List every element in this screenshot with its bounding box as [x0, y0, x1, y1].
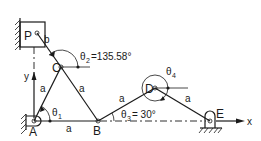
svg-text:1: 1 [58, 113, 62, 120]
theta3-arc [112, 113, 114, 121]
label-link-ac: a [40, 83, 46, 94]
link-cb [61, 67, 98, 121]
label-e: E [216, 107, 224, 121]
label-link-de: a [185, 93, 191, 104]
label-b: B [93, 124, 101, 138]
label-link-bd: a [119, 93, 125, 104]
label-c: C [52, 61, 61, 75]
y-axis-arrowhead [32, 72, 37, 80]
svg-text:4: 4 [172, 72, 176, 79]
x-axis-arrowhead [236, 119, 245, 124]
label-y-axis: y [24, 71, 29, 82]
svg-text:=135.58°: =135.58° [91, 51, 131, 62]
svg-text:3: 3 [127, 115, 131, 122]
label-link-cb: a [79, 83, 85, 94]
theta4-label: θ 4 [166, 66, 176, 79]
label-link-ab: a [66, 123, 72, 134]
theta3-label: θ 3 = 30° [121, 109, 156, 122]
label-d: D [145, 82, 154, 96]
svg-text:= 30°: = 30° [132, 109, 156, 120]
linkage-diagram: P C A B D E b a a a a a θ 2 =135.58° θ 1… [0, 0, 261, 141]
theta1-label: θ 1 [52, 107, 62, 120]
label-x-axis: x [247, 116, 252, 127]
label-link-pc: b [44, 34, 50, 45]
label-p: P [24, 29, 32, 43]
slider-wall [15, 18, 20, 50]
label-a: A [29, 125, 37, 139]
svg-text:2: 2 [86, 57, 90, 64]
link-de [155, 88, 210, 121]
theta2-label: θ 2 =135.58° [80, 51, 131, 64]
